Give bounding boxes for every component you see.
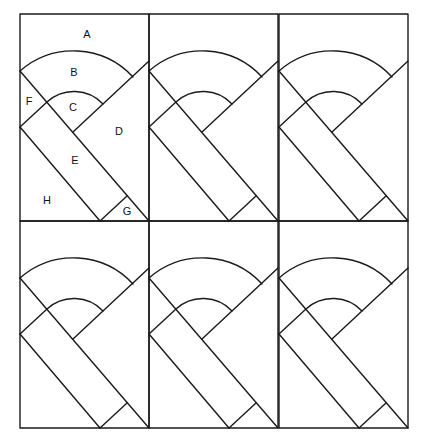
label-B: B [70,66,77,78]
block-r1-c2 [149,14,278,221]
label-G: G [123,205,132,217]
block-r1-c3 [279,14,408,221]
label-C: C [69,101,77,113]
label-F: F [26,95,33,107]
block-r2-c3 [279,221,408,428]
quilt-pattern-diagram: A B C D E F G H [0,0,423,446]
label-D: D [115,125,123,137]
block-r2-c1 [20,221,149,428]
block-r2-c2 [149,221,278,428]
label-A: A [83,28,91,40]
label-H: H [43,194,51,206]
block-r1-c1: A B C D E F G H [20,14,149,221]
label-E: E [71,154,78,166]
